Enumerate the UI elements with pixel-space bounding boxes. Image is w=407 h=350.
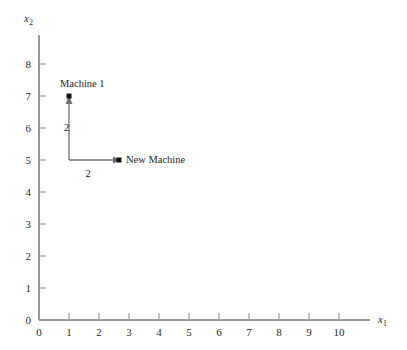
y-tick-label: 4: [26, 186, 32, 198]
rectilinear-distance-figure: 0 1 2 3 4 5 6 7 8 9 10 0 1: [0, 0, 407, 350]
data-point-new-machine: [117, 158, 122, 163]
y-tick-label: 2: [26, 250, 32, 262]
x-axis-title: x1: [377, 313, 387, 328]
x-axis-ticks: [39, 313, 339, 320]
x-tick-label: 9: [306, 326, 312, 338]
data-point-machine-1: [67, 94, 72, 99]
x-tick-label: 0: [36, 326, 42, 338]
y-axis-tick-labels: 0 1 2 3 4 5 6 7 8: [26, 58, 32, 326]
x-tick-label: 7: [246, 326, 252, 338]
x-tick-label: 6: [216, 326, 222, 338]
x-tick-label: 3: [126, 326, 132, 338]
x-axis-tick-labels: 0 1 2 3 4 5 6 7 8 9 10: [36, 326, 345, 338]
y-tick-label: 3: [26, 218, 32, 230]
chart-canvas: 0 1 2 3 4 5 6 7 8 9 10 0 1: [0, 0, 407, 350]
y-tick-label: 8: [26, 58, 32, 70]
point-label-machine-1: Machine 1: [60, 78, 105, 89]
x-tick-label: 4: [156, 326, 162, 338]
y-tick-label: 7: [26, 90, 32, 102]
x-tick-label: 2: [96, 326, 102, 338]
x-tick-label: 5: [186, 326, 192, 338]
distance-label-vertical: 2: [64, 122, 69, 133]
x-tick-label: 10: [334, 326, 346, 338]
y-tick-label: 6: [26, 122, 32, 134]
x-tick-label: 8: [276, 326, 282, 338]
x-tick-label: 1: [66, 326, 72, 338]
y-axis-title-subscript: 2: [29, 18, 33, 27]
y-tick-label: 0: [26, 314, 32, 326]
y-tick-label: 5: [26, 154, 32, 166]
y-axis-title: x2: [23, 12, 33, 27]
y-axis-ticks: [39, 64, 46, 320]
x-axis-title-subscript: 1: [383, 319, 387, 328]
y-tick-label: 1: [26, 282, 32, 294]
distance-label-horizontal: 2: [85, 168, 90, 179]
point-label-new-machine: New Machine: [126, 154, 186, 165]
